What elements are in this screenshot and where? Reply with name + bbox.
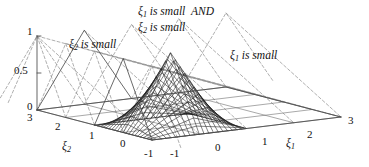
ztick-1: 1 <box>27 26 33 38</box>
xi1tick-3: 3 <box>348 115 354 127</box>
title-line1-text: is small <box>147 5 185 17</box>
annotation-xi1-text: is small <box>239 49 277 61</box>
plot-title: ξ1 is small AND ξ2 is small <box>138 4 214 36</box>
ztick-0.5: 0.5 <box>14 65 28 77</box>
title-line2-text: is small <box>147 21 185 33</box>
xi2tick-1: 1 <box>89 130 95 142</box>
annotation-xi1-is-small: ξ1 is small <box>230 49 277 63</box>
xi2tick-2: 2 <box>55 121 61 133</box>
xi1tick-1: 1 <box>262 136 268 148</box>
xi1tick-2: 2 <box>307 129 313 141</box>
annotation-xi2-text: is small <box>78 38 116 50</box>
axis-label-xi1-subscript: 1 <box>291 142 295 151</box>
plot-title-line1: ξ1 is small AND <box>138 4 214 20</box>
annotation-xi2-is-small: ξ2 is small <box>69 38 116 52</box>
xi2tick-3: 3 <box>27 112 33 124</box>
plot-title-line2: ξ2 is small <box>138 20 214 36</box>
axis-label-xi1: ξ1 <box>286 137 295 151</box>
axis-label-xi2: ξ2 <box>62 140 71 154</box>
xi2tick-0: 0 <box>120 138 126 150</box>
figure-fuzzy-and-surface: ξ1 is small AND ξ2 is small ξ2 is small … <box>0 0 369 167</box>
title-operator: AND <box>191 5 214 17</box>
xi2tick--1: -1 <box>144 148 153 160</box>
axis-label-xi2-subscript: 2 <box>67 145 71 154</box>
xi1tick--1: -1 <box>170 148 179 160</box>
xi1tick-0: 0 <box>215 142 221 154</box>
